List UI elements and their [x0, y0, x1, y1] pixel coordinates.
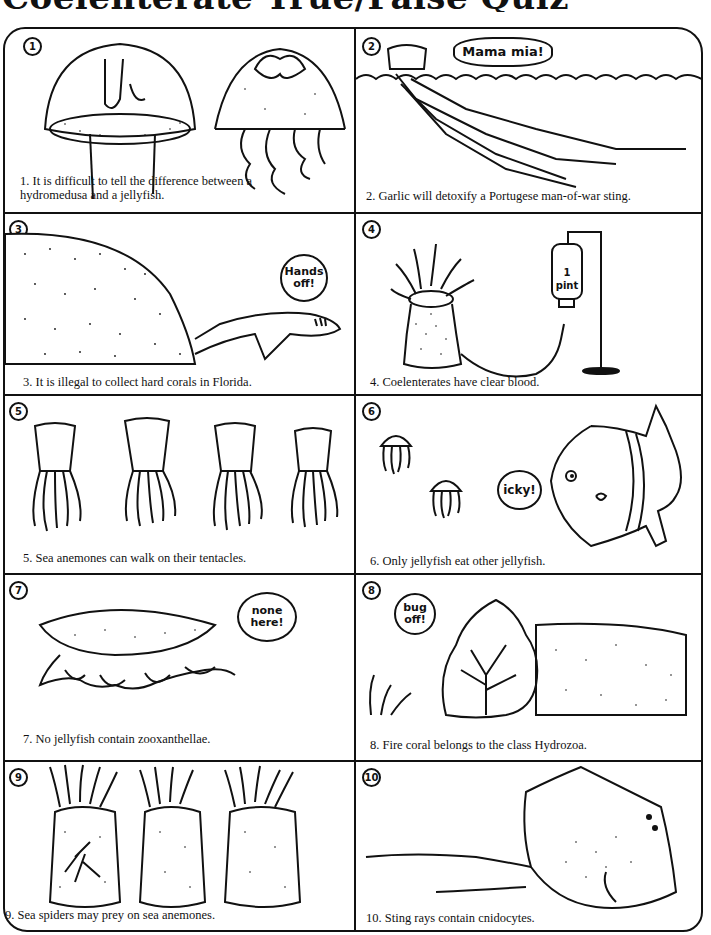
question-3-caption: 3. It is illegal to collect hard corals … — [23, 375, 343, 389]
question-4-caption: 4. Coelenterates have clear blood. — [370, 375, 690, 389]
speech-bubble-none-here: none here! — [237, 592, 297, 642]
iv-bag-label: 1 — [564, 267, 571, 278]
question-9-caption: 9. Sea spiders may prey on sea anemones. — [5, 908, 325, 922]
panel-10-sting-ray: 10 10. Sting rays contain cnidocytes. — [356, 762, 702, 932]
speech-bubble-bug-off: bug off! — [394, 593, 436, 635]
question-8-caption: 8. Fire coral belongs to the class Hydro… — [370, 738, 690, 752]
panel-5-walking-anemones: 5 5. Sea anemones can walk on their tent… — [5, 396, 354, 573]
question-2-caption: 2. Garlic will detoxify a Portugese man-… — [366, 189, 696, 203]
panel-3-hard-coral: 3 Hands off! 3. It is illegal to collect… — [5, 214, 354, 394]
panel-9-sea-spiders: 9 9. Sea spiders may prey on sea anemone… — [5, 762, 354, 932]
panel-1-hydromedusa: 1 1. It is difficult to tell the differe… — [5, 29, 354, 212]
sting-ray-illustration — [356, 762, 702, 932]
walking-anemones-illustration — [5, 396, 354, 573]
panel-4-clear-blood: 4 1 pint 4. Coelenterates have clear blo… — [356, 214, 702, 394]
anemone-iv-drip-illustration: 1 pint — [356, 214, 702, 394]
brain-coral-and-shark-illustration — [5, 214, 354, 394]
speech-bubble-icky: icky! — [497, 470, 542, 510]
question-6-caption: 6. Only jellyfish eat other jellyfish. — [370, 554, 630, 568]
question-10-caption: 10. Sting rays contain cnidocytes. — [366, 911, 686, 925]
panel-6-sunfish: 6 icky! 6. Only jellyfish eat other jell… — [356, 396, 702, 573]
question-1-caption: 1. It is difficult to tell the differenc… — [20, 174, 320, 202]
sea-anemones-with-sea-spider-illustration — [5, 762, 354, 932]
panel-2-man-of-war: 2 Mama mia! 2. Garlic will detoxify a Po… — [356, 29, 702, 212]
panel-7-zooxanthellae: 7 none here! 7. No jellyfish contain zoo… — [5, 575, 354, 760]
speech-bubble-mama-mia: Mama mia! — [453, 37, 553, 67]
speech-bubble-hands-off: Hands off! — [280, 254, 328, 302]
question-5-caption: 5. Sea anemones can walk on their tentac… — [23, 551, 343, 565]
question-7-caption: 7. No jellyfish contain zooxanthellae. — [23, 732, 343, 746]
svg-text:pint: pint — [556, 280, 579, 291]
page-title: Coelenterate True/False Quiz — [0, 0, 711, 12]
panel-8-fire-coral: 8 bug off! 8. Fire coral belongs to the … — [356, 575, 702, 760]
